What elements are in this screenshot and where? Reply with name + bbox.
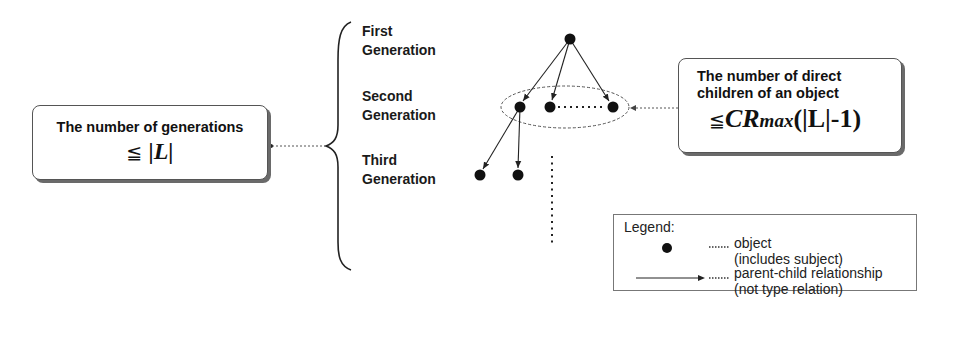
generations-bound-title: The number of generations: [33, 119, 267, 136]
node-gen3-a: [475, 170, 486, 181]
label-third-generation: Third Generation: [362, 151, 436, 189]
direct-children-formula: ≦CRmax(|L|-1): [687, 103, 893, 138]
generations-bound-formula: ≦ |L|: [33, 137, 267, 166]
legend-item-parent-child: parent-child relationship (not type rela…: [734, 265, 883, 297]
connector-end-dot: [269, 144, 273, 148]
node-gen3-b: [513, 170, 524, 181]
formula-abs-L: |L|: [148, 138, 173, 164]
node-root: [565, 34, 576, 45]
label-first-generation: First Generation: [362, 22, 436, 60]
direct-children-title: The number of direct children of an obje…: [687, 68, 893, 102]
direct-children-bound-box: The number of direct children of an obje…: [678, 58, 902, 153]
leq-symbol: ≦: [709, 109, 725, 131]
generation-brace: [326, 22, 351, 270]
node-gen2-c: [608, 102, 619, 113]
leq-symbol: ≦: [126, 141, 142, 163]
label-second-generation: Second Generation: [362, 87, 436, 125]
generations-bound-box: The number of generations ≦ |L|: [32, 105, 268, 180]
legend-object-icon: [662, 243, 672, 253]
tree-nodes: [475, 34, 619, 181]
node-gen2-b: [545, 102, 556, 113]
legend-box: Legend: object (includes subject) parent…: [613, 214, 917, 291]
node-gen2-a: [515, 102, 526, 113]
legend-item-object: object (includes subject): [734, 235, 843, 267]
